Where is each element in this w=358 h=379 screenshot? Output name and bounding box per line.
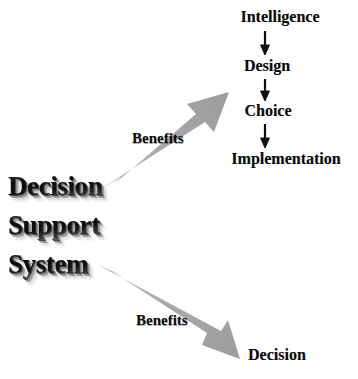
dss-line-system: System: [8, 246, 128, 282]
phase-label-implementation: Implementation: [231, 150, 340, 168]
connector-design-choice: [261, 79, 270, 101]
outcome-label-decision: Decision: [248, 346, 306, 364]
benefits-label-upper: Benefits: [132, 130, 184, 147]
phase-label-intelligence: Intelligence: [240, 8, 319, 26]
dss-line-support: Support: [8, 207, 128, 243]
decision-support-system-wordmark: Decision Support System: [8, 168, 128, 282]
dss-line-decision: Decision: [8, 168, 128, 204]
connector-choice-implementation: [261, 124, 270, 148]
connector-intelligence-design: [261, 31, 270, 55]
process-connector-arrows: [261, 31, 270, 148]
phase-label-choice: Choice: [244, 102, 291, 120]
phase-label-design: Design: [244, 57, 290, 75]
benefits-label-lower: Benefits: [136, 312, 188, 329]
dss-benefits-diagram: Decision Support System Benefits Benefit…: [0, 0, 358, 379]
